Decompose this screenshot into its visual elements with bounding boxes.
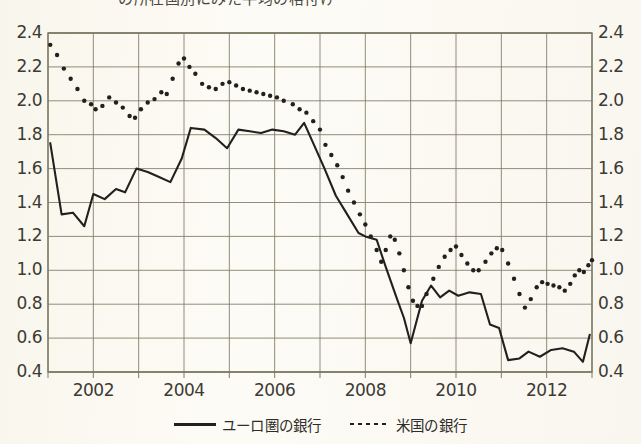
series-dot-1 [506, 261, 510, 265]
y-axis-label-left: 2.2 [2, 56, 42, 76]
y-axis-label-left: 1.2 [2, 225, 42, 245]
series-dot-1 [523, 305, 527, 309]
x-axis-label: 2002 [65, 380, 121, 400]
legend-swatch-dotted-line [348, 422, 390, 426]
series-dot-1 [471, 268, 475, 272]
y-axis-label-right: 1.4 [598, 192, 638, 212]
series-dot-1 [318, 127, 322, 131]
series-dot-1 [68, 77, 72, 81]
series-dot-1 [590, 258, 594, 262]
series-dot-1 [193, 71, 197, 75]
series-dot-1 [495, 246, 499, 250]
series-dot-1 [454, 244, 458, 248]
series-dot-1 [340, 175, 344, 179]
series-dot-1 [114, 100, 118, 104]
series-dot-1 [75, 87, 79, 91]
series-dot-1 [121, 105, 125, 109]
y-axis-label-right: 1.2 [598, 225, 638, 245]
series-dot-1 [483, 260, 487, 264]
series-dot-1 [540, 280, 544, 284]
y-axis-label-left: 0.6 [2, 327, 42, 347]
chart-plot-container: 2.42.42.22.22.02.01.81.81.61.61.41.41.21… [0, 0, 641, 404]
x-axis-label: 2012 [519, 380, 575, 400]
series-dot-1 [275, 95, 279, 99]
series-dot-1 [459, 253, 463, 257]
series-dot-1 [431, 277, 435, 281]
x-axis-label: 2008 [337, 380, 393, 400]
y-axis-label-left: 0.8 [2, 293, 42, 313]
series-dot-1 [406, 285, 410, 289]
chart-svg [0, 0, 641, 404]
y-axis-label-right: 2.4 [598, 22, 638, 42]
series-dot-1 [358, 212, 362, 216]
series-dot-1 [62, 66, 66, 70]
series-dot-1 [557, 285, 561, 289]
series-dot-1 [329, 153, 333, 157]
series-dot-1 [107, 95, 111, 99]
series-dot-1 [241, 87, 245, 91]
series-dot-1 [227, 80, 231, 84]
series-dot-1 [282, 99, 286, 103]
series-dot-1 [268, 94, 272, 98]
series-dot-1 [369, 234, 373, 238]
legend-item-us: 米国の銀行 [348, 414, 468, 435]
series-dot-1 [254, 90, 258, 94]
series-dot-1 [291, 102, 295, 106]
legend-swatch-solid-line [174, 423, 216, 426]
series-dot-1 [176, 61, 180, 65]
series-dot-1 [234, 83, 238, 87]
series-dot-1 [465, 261, 469, 265]
series-dot-1 [352, 200, 356, 204]
series-dot-1 [568, 282, 572, 286]
series-dot-1 [127, 114, 131, 118]
y-axis-label-left: 2.4 [2, 22, 42, 42]
y-axis-label-right: 2.2 [598, 56, 638, 76]
x-axis-label: 2006 [247, 380, 303, 400]
series-dot-1 [335, 163, 339, 167]
series-dot-1 [534, 285, 538, 289]
series-dot-1 [200, 82, 204, 86]
series-dot-1 [388, 234, 392, 238]
series-dot-1 [133, 116, 137, 120]
series-dot-1 [517, 292, 521, 296]
series-dot-1 [82, 99, 86, 103]
legend-label-us: 米国の銀行 [396, 414, 468, 435]
series-dot-1 [577, 268, 581, 272]
legend-item-eurozone: ユーロ圏の銀行 [174, 414, 322, 435]
y-axis-label-left: 2.0 [2, 90, 42, 110]
y-axis-label-right: 0.4 [598, 361, 638, 381]
series-dot-1 [165, 92, 169, 96]
series-dot-1 [545, 282, 549, 286]
series-dot-1 [139, 107, 143, 111]
series-dot-1 [573, 273, 577, 277]
series-dot-1 [248, 88, 252, 92]
series-dot-1 [437, 265, 441, 269]
series-dot-1 [89, 102, 93, 106]
series-dot-1 [442, 255, 446, 259]
series-dot-1 [529, 297, 533, 301]
series-dot-1 [207, 85, 211, 89]
y-axis-label-right: 2.0 [598, 90, 638, 110]
series-dot-1 [48, 43, 52, 47]
series-dot-1 [551, 283, 555, 287]
series-dot-1 [146, 100, 150, 104]
series-dot-1 [346, 188, 350, 192]
chart-page: の所在国別にみた平均の格付け 2.42.42.22.22.02.01.81.81… [0, 0, 641, 444]
series-dot-1 [424, 292, 428, 296]
x-axis-label: 2004 [156, 380, 212, 400]
series-dot-1 [93, 107, 97, 111]
series-dot-1 [214, 87, 218, 91]
series-dot-1 [489, 251, 493, 255]
series-dot-1 [476, 268, 480, 272]
y-axis-label-right: 0.6 [598, 327, 638, 347]
series-dot-1 [379, 260, 383, 264]
series-dot-1 [55, 53, 59, 57]
series-dot-1 [512, 277, 516, 281]
series-dot-1 [415, 304, 419, 308]
series-dot-1 [152, 97, 156, 101]
series-dot-1 [384, 248, 388, 252]
series-dot-1 [261, 92, 265, 96]
series-dot-1 [187, 65, 191, 69]
series-dot-1 [563, 288, 567, 292]
series-dot-1 [363, 222, 367, 226]
